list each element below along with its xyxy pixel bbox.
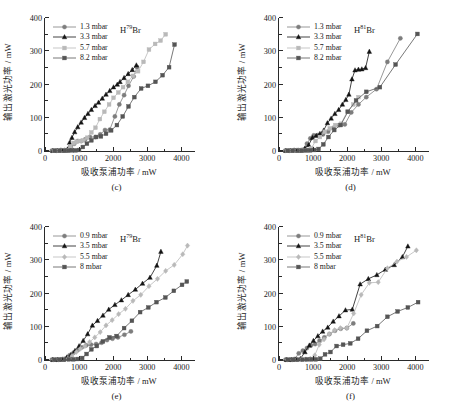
legend-marker-square-icon <box>52 262 77 272</box>
legend-item: 8 mbar <box>52 262 108 272</box>
x-tick-minor <box>130 358 131 361</box>
x-tick-minor <box>164 358 165 361</box>
y-tick-minor <box>279 243 282 244</box>
y-tick-minor <box>45 34 48 35</box>
y-tick-mark <box>279 226 283 227</box>
y-tick-label: 400 <box>30 14 42 23</box>
y-tick-mark <box>45 117 49 118</box>
legend-label: 5.7 mbar <box>314 43 342 53</box>
y-tick-label: 100 <box>30 113 42 122</box>
x-tick-label: 4000 <box>173 154 189 163</box>
y-tick-minor <box>45 309 48 310</box>
y-tick-mark <box>45 17 49 18</box>
y-tick-minor <box>45 133 48 134</box>
data-series <box>283 321 355 361</box>
legend-d: 1.3 mbar3.3 mbar5.7 mbar8.2 mbar <box>286 22 342 63</box>
x-tick-label: 0 <box>277 154 281 163</box>
x-axis-label-e: 吸收泵浦功率 / mW <box>44 374 194 386</box>
legend-item: 5.5 mbar <box>286 252 342 262</box>
legend-marker-circle-icon <box>52 22 77 32</box>
y-tick-mark <box>45 293 49 294</box>
x-tick-mark <box>45 356 46 360</box>
x-tick-minor <box>364 149 365 152</box>
legend-label: 3.3 mbar <box>314 32 342 42</box>
y-tick-minor <box>279 133 282 134</box>
y-tick-minor <box>279 276 282 277</box>
y-tick-label: 0 <box>38 356 42 365</box>
legend-label: 8 mbar <box>314 262 336 272</box>
legend-label: 5.5 mbar <box>80 252 108 262</box>
x-tick-mark <box>415 356 416 360</box>
legend-marker-diamond-icon <box>286 252 311 262</box>
legend-marker-triangle-icon <box>286 241 311 251</box>
x-tick-mark <box>347 356 348 360</box>
y-tick-minor <box>279 34 282 35</box>
x-axis-label-d: 吸收泵浦功率 / mW <box>278 165 428 177</box>
y-tick-minor <box>279 100 282 101</box>
x-tick-label: 2000 <box>105 363 121 372</box>
legend-marker-triangle-icon <box>286 32 311 42</box>
x-tick-label: 1000 <box>71 154 87 163</box>
y-tick-label: 300 <box>264 256 276 265</box>
x-tick-mark <box>147 356 148 360</box>
species-label-d: H81Br <box>354 24 375 35</box>
species-label-e: H79Br <box>120 233 141 244</box>
legend-marker-square-icon <box>286 43 311 53</box>
x-tick-minor <box>164 149 165 152</box>
x-tick-mark <box>79 356 80 360</box>
y-tick-label: 400 <box>264 14 276 23</box>
x-tick-label: 0 <box>43 363 47 372</box>
y-tick-mark <box>279 50 283 51</box>
x-tick-minor <box>398 358 399 361</box>
legend-item: 5.7 mbar <box>286 43 342 53</box>
y-tick-label: 400 <box>30 223 42 232</box>
y-tick-label: 100 <box>264 113 276 122</box>
y-tick-label: 0 <box>272 356 276 365</box>
y-tick-minor <box>45 342 48 343</box>
legend-item: 3.3 mbar <box>52 32 108 42</box>
x-tick-label: 2000 <box>105 154 121 163</box>
y-tick-minor <box>279 67 282 68</box>
x-tick-mark <box>381 356 382 360</box>
x-tick-label: 4000 <box>407 363 423 372</box>
y-tick-mark <box>45 84 49 85</box>
y-tick-minor <box>279 309 282 310</box>
legend-label: 0.9 mbar <box>80 231 108 241</box>
y-axis-label-f: 输出激光功率 / mW <box>232 231 250 351</box>
x-tick-label: 4000 <box>407 154 423 163</box>
legend-item: 1.3 mbar <box>52 22 108 32</box>
legend-label: 1.3 mbar <box>314 22 342 32</box>
x-tick-label: 3000 <box>373 154 389 163</box>
y-axis-label-c: 输出激光功率 / mW <box>0 22 16 142</box>
y-tick-mark <box>45 326 49 327</box>
legend-marker-square-icon <box>52 53 77 63</box>
panel-c: 输出激光功率 / mW 0100200300400010002000300040… <box>0 0 233 208</box>
x-tick-label: 2000 <box>339 154 355 163</box>
x-tick-minor <box>96 149 97 152</box>
y-tick-label: 100 <box>30 322 42 331</box>
x-tick-minor <box>398 149 399 152</box>
x-tick-minor <box>130 149 131 152</box>
legend-label: 5.7 mbar <box>80 43 108 53</box>
y-tick-mark <box>279 293 283 294</box>
y-tick-minor <box>45 67 48 68</box>
y-tick-minor <box>45 100 48 101</box>
data-series <box>52 280 188 362</box>
legend-item: 0.9 mbar <box>52 231 108 241</box>
legend-item: 8.2 mbar <box>52 53 108 63</box>
legend-marker-square-icon <box>286 262 311 272</box>
legend-label: 8 mbar <box>80 262 102 272</box>
y-tick-minor <box>279 342 282 343</box>
legend-item: 5.5 mbar <box>52 252 108 262</box>
legend-marker-circle-icon <box>286 22 311 32</box>
x-tick-label: 4000 <box>173 363 189 372</box>
panel-tag-e: (e) <box>0 391 233 401</box>
y-tick-label: 300 <box>264 47 276 56</box>
y-tick-label: 400 <box>264 223 276 232</box>
x-tick-label: 0 <box>43 154 47 163</box>
y-tick-mark <box>279 259 283 260</box>
x-tick-label: 3000 <box>139 363 155 372</box>
x-tick-minor <box>296 149 297 152</box>
figure-laser-output-vs-pump-power: 输出激光功率 / mW 0100200300400010002000300040… <box>0 0 467 417</box>
legend-label: 5.5 mbar <box>314 252 342 262</box>
